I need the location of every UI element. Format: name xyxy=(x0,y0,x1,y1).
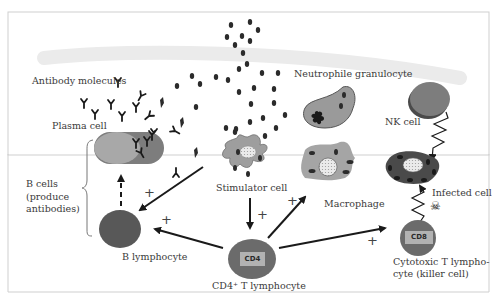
label-b-lymphocyte: B lymphocyte xyxy=(122,251,187,263)
label-cd4-t-lymphocyte: CD4⁺ T lymphocyte xyxy=(212,280,306,292)
ctl-zigzag xyxy=(412,186,424,222)
b-cells-brace xyxy=(82,140,93,236)
plus-sign: + xyxy=(161,213,172,226)
label-macrophage: Macrophage xyxy=(324,198,385,210)
label-neutrophile-granulocyte: Neutrophile granulocyte xyxy=(294,68,412,80)
plus-sign: + xyxy=(287,194,298,207)
cd4-badge: CD4 xyxy=(240,253,265,265)
label-infected-cell: Infected cell xyxy=(432,187,492,199)
label-plasma-cell: Plasma cell xyxy=(52,120,107,132)
label-antibodies: antibodies) xyxy=(26,203,80,215)
label-cytotoxic-t-1: Cytotoxic T lympho- xyxy=(393,256,489,268)
plus-sign: + xyxy=(367,234,378,247)
macrophage-cell xyxy=(301,142,355,181)
antigen-particles xyxy=(175,19,287,139)
stimulator-cell xyxy=(223,135,268,177)
nk-zigzag xyxy=(432,112,448,160)
cd8-badge: CD8 xyxy=(405,231,433,243)
b-lymphocyte-cell xyxy=(99,210,141,248)
skull-icon: ☠ xyxy=(430,200,441,212)
infected-cell xyxy=(386,151,440,184)
plasma-cell xyxy=(94,131,164,164)
nk-cell xyxy=(408,82,450,119)
neutrophile-granulocyte-cell xyxy=(304,87,355,128)
label-stimulator-cell: Stimulator cell xyxy=(216,182,287,194)
label-b-cells: B cells xyxy=(26,178,58,190)
label-antibody-molecules: Antibody molecules xyxy=(32,75,126,87)
label-nk-cell: NK cell xyxy=(385,116,420,128)
plus-sign: + xyxy=(257,208,268,221)
label-produce: (produce xyxy=(26,191,69,203)
plus-sign: + xyxy=(144,186,155,199)
label-cytotoxic-t-2: cyte (killer cell) xyxy=(393,268,469,280)
